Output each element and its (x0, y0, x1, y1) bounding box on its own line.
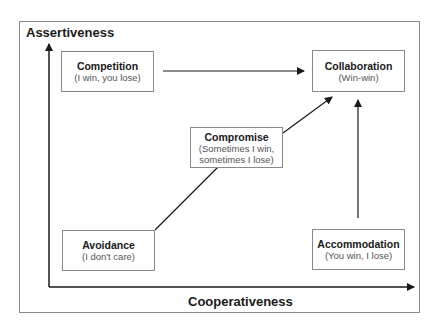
arrow-compromise-to-collaboration (283, 97, 332, 133)
accommodation-subtitle: (You win, I lose) (325, 250, 392, 261)
x-axis-label: Cooperativeness (188, 294, 293, 309)
collaboration-subtitle: (Win-win) (338, 72, 378, 83)
line-avoidance-to-compromise (155, 167, 218, 230)
accommodation-title: Accommodation (317, 238, 399, 250)
accommodation-box: Accommodation (You win, I lose) (312, 229, 405, 270)
collaboration-title: Collaboration (325, 60, 393, 72)
competition-box: Competition (I win, you lose) (61, 51, 154, 92)
collaboration-box: Collaboration (Win-win) (312, 50, 405, 92)
competition-title: Competition (77, 60, 138, 72)
compromise-box: Compromise (Sometimes I win, sometimes I… (190, 127, 283, 168)
y-axis-label: Assertiveness (26, 25, 114, 40)
compromise-subtitle-line2: sometimes I lose) (199, 154, 273, 165)
avoidance-subtitle: (I don't care) (82, 251, 135, 262)
conflict-modes-diagram: Assertiveness Cooperativeness Competitio… (0, 0, 439, 332)
avoidance-box: Avoidance (I don't care) (62, 230, 155, 271)
compromise-title: Compromise (204, 131, 268, 143)
compromise-subtitle-line1: (Sometimes I win, (199, 143, 275, 154)
avoidance-title: Avoidance (82, 239, 135, 251)
competition-subtitle: (I win, you lose) (74, 72, 141, 83)
